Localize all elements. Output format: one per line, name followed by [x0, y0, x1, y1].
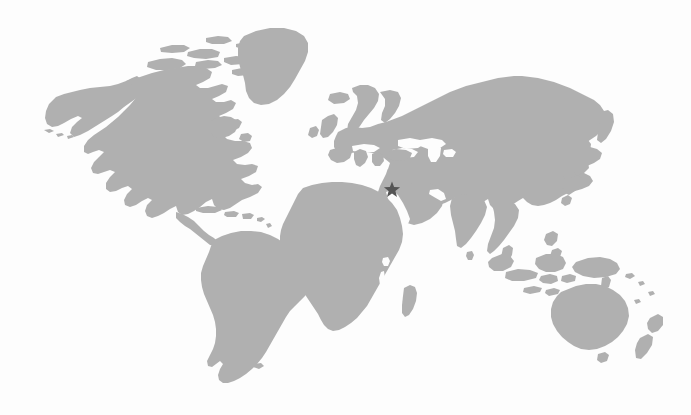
world-map-figure: World map with location marker Eastern M…	[0, 0, 691, 415]
world-map-graphic	[0, 0, 691, 415]
